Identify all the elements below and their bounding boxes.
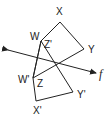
label-w: W — [30, 31, 40, 42]
label-z-prime: Z' — [44, 39, 52, 50]
label-y-prime: Y' — [77, 89, 86, 100]
reflection-diagram: X W Z' Y W' Z Y' X' f — [0, 0, 112, 120]
label-x: X — [56, 6, 63, 17]
label-y: Y — [88, 44, 95, 55]
label-x-prime: X' — [33, 105, 42, 116]
label-line-f: f — [99, 67, 104, 81]
line-f — [8, 50, 96, 73]
label-z: Z — [37, 78, 43, 89]
label-w-prime: W' — [18, 74, 29, 85]
quadrilateral-wxyz-prime — [33, 41, 73, 101]
